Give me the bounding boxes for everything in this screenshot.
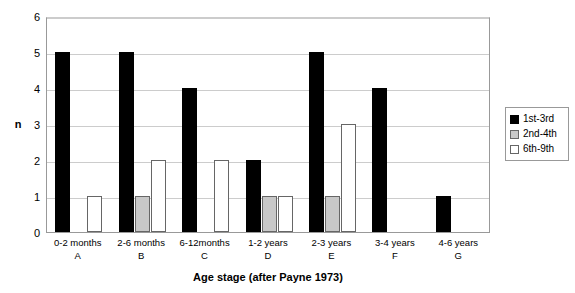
category-code: D bbox=[236, 249, 299, 262]
category-code: E bbox=[300, 249, 363, 262]
y-tick-label: 3 bbox=[34, 120, 40, 131]
category-label: 2-6 monthsB bbox=[109, 236, 172, 262]
bar bbox=[214, 160, 229, 232]
category-name: 2-3 years bbox=[300, 236, 363, 249]
y-tick-label: 0 bbox=[34, 228, 40, 239]
category-label: 0-2 monthsA bbox=[46, 236, 109, 262]
legend-label: 2nd-4th bbox=[523, 129, 557, 139]
y-tick-label: 2 bbox=[34, 156, 40, 167]
bar-group bbox=[309, 18, 356, 232]
x-axis-title: Age stage (after Payne 1973) bbox=[46, 271, 490, 283]
bar bbox=[372, 88, 387, 232]
category-name: 2-6 months bbox=[109, 236, 172, 249]
legend-swatch-icon bbox=[510, 130, 519, 139]
y-tick-label: 1 bbox=[34, 192, 40, 203]
category-code: B bbox=[109, 249, 172, 262]
bar bbox=[309, 52, 324, 232]
plot-area bbox=[46, 17, 490, 233]
category-name: 4-6 years bbox=[427, 236, 490, 249]
bar-group bbox=[246, 18, 293, 232]
bar-group bbox=[436, 18, 483, 232]
bar bbox=[119, 52, 134, 232]
bar-group bbox=[55, 18, 102, 232]
bar bbox=[87, 196, 102, 232]
bar bbox=[135, 196, 150, 232]
bar-group bbox=[182, 18, 229, 232]
x-axis-category-labels: 0-2 monthsA2-6 monthsB6-12monthsC1-2 yea… bbox=[46, 236, 490, 272]
category-label: 3-4 yearsF bbox=[363, 236, 426, 262]
category-label: 2-3 yearsE bbox=[300, 236, 363, 262]
category-name: 0-2 months bbox=[46, 236, 109, 249]
y-tick-label: 5 bbox=[34, 48, 40, 59]
bar-group bbox=[119, 18, 166, 232]
bar bbox=[182, 88, 197, 232]
category-code: F bbox=[363, 249, 426, 262]
legend-item[interactable]: 2nd-4th bbox=[510, 127, 564, 141]
category-code: C bbox=[173, 249, 236, 262]
category-label: 6-12monthsC bbox=[173, 236, 236, 262]
bar-chart: n 0123456 0-2 monthsA2-6 monthsB6-12mont… bbox=[0, 0, 575, 293]
bar-group bbox=[372, 18, 419, 232]
y-axis-title: n bbox=[8, 118, 28, 130]
bar bbox=[341, 124, 356, 232]
legend-label: 6th-9th bbox=[523, 144, 554, 154]
category-label: 1-2 yearsD bbox=[236, 236, 299, 262]
bar bbox=[55, 52, 70, 232]
category-label: 4-6 yearsG bbox=[427, 236, 490, 262]
bar bbox=[151, 160, 166, 232]
legend: 1st-3rd2nd-4th6th-9th bbox=[505, 107, 569, 161]
bar bbox=[325, 196, 340, 232]
legend-swatch-icon bbox=[510, 115, 519, 124]
y-tick-label: 6 bbox=[34, 12, 40, 23]
bar bbox=[262, 196, 277, 232]
legend-item[interactable]: 6th-9th bbox=[510, 142, 564, 156]
y-tick-label: 4 bbox=[34, 84, 40, 95]
legend-item[interactable]: 1st-3rd bbox=[510, 112, 564, 126]
bar bbox=[436, 196, 451, 232]
category-name: 6-12months bbox=[173, 236, 236, 249]
bars-layer bbox=[47, 18, 489, 232]
category-name: 1-2 years bbox=[236, 236, 299, 249]
legend-swatch-icon bbox=[510, 145, 519, 154]
category-code: A bbox=[46, 249, 109, 262]
category-name: 3-4 years bbox=[363, 236, 426, 249]
legend-label: 1st-3rd bbox=[523, 114, 554, 124]
bar bbox=[246, 160, 261, 232]
category-code: G bbox=[427, 249, 490, 262]
bar bbox=[278, 196, 293, 232]
y-axis-tick-labels: 0123456 bbox=[26, 0, 44, 293]
